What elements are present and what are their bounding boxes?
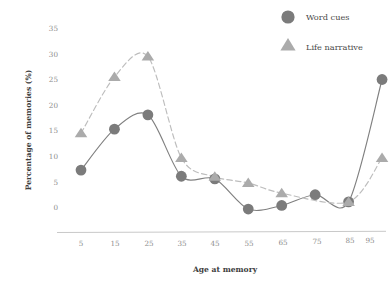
x-tick-label: 15 <box>110 239 120 248</box>
y-axis-title: Percentage of memories (%) <box>24 70 33 191</box>
series-line-life-narrative <box>81 53 382 203</box>
data-point-marker <box>310 189 321 200</box>
series-markers-layer <box>75 51 389 214</box>
legend-label-word-cues: Word cues <box>306 12 349 22</box>
data-point-marker <box>108 72 121 82</box>
data-point-marker <box>142 51 155 61</box>
data-point-marker <box>75 128 88 138</box>
data-point-marker <box>377 74 388 85</box>
y-tick-label: 5 <box>53 178 58 187</box>
data-point-marker <box>143 109 154 120</box>
data-point-marker <box>76 165 87 176</box>
x-axis-tick-labels: 5 15 25 35 45 55 65 75 85 95 <box>79 236 375 248</box>
y-axis-tick-labels: 35 30 25 20 15 10 5 0 <box>49 24 59 212</box>
x-tick-label: 35 <box>177 239 187 248</box>
data-point-marker <box>176 171 187 182</box>
data-point-marker <box>376 152 389 162</box>
x-tick-label: 75 <box>312 237 322 246</box>
series-lines-layer <box>81 53 382 211</box>
data-point-marker <box>276 200 287 211</box>
legend-circle-icon <box>281 10 294 23</box>
legend-triangle-icon <box>280 38 295 51</box>
y-tick-label: 20 <box>49 101 59 110</box>
y-tick-label: 25 <box>49 75 59 84</box>
x-tick-label: 85 <box>345 236 355 245</box>
series-line-word-cues <box>81 80 382 211</box>
data-point-marker <box>175 152 188 162</box>
x-tick-label: 45 <box>210 239 220 248</box>
x-tick-label: 95 <box>365 236 375 245</box>
chart-legend: Word cues Life narrative <box>280 10 363 52</box>
line-chart-plot: 35 30 25 20 15 10 5 0 Percentage of memo… <box>0 0 392 289</box>
y-tick-label: 30 <box>49 50 59 59</box>
x-tick-label: 25 <box>144 239 154 248</box>
legend-label-life-narrative: Life narrative <box>306 42 363 52</box>
chart-container: 35 30 25 20 15 10 5 0 Percentage of memo… <box>0 0 392 289</box>
y-tick-label: 10 <box>49 152 59 161</box>
y-tick-label: 15 <box>49 126 59 135</box>
data-point-marker <box>243 204 254 215</box>
x-tick-label: 5 <box>79 239 84 248</box>
data-point-marker <box>109 124 120 135</box>
y-tick-label: 35 <box>49 24 59 33</box>
x-tick-label: 65 <box>278 238 288 247</box>
x-axis-title: Age at memory <box>192 265 258 274</box>
x-tick-label: 55 <box>244 239 254 248</box>
y-tick-label: 0 <box>53 203 58 212</box>
x-axis-line <box>57 231 386 232</box>
